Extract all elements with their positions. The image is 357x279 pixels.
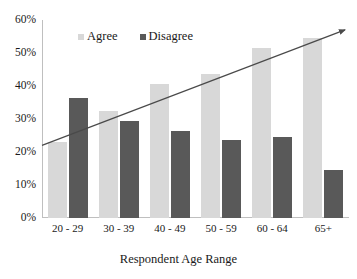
bar-agree	[99, 111, 118, 218]
bar-agree	[150, 84, 169, 218]
y-axis-tick-label: 20%	[0, 146, 36, 158]
chart-legend: AgreeDisagree	[78, 30, 193, 43]
bar-group	[247, 20, 298, 218]
bar-disagree	[120, 121, 139, 218]
plot-area	[42, 20, 349, 218]
y-axis-tick-label: 10%	[0, 179, 36, 191]
bar-group	[144, 20, 195, 218]
bar-disagree	[324, 170, 343, 218]
bar-chart: 60%50%40%30%20%10%0% AgreeDisagree 20 - …	[0, 0, 357, 279]
bar-group	[93, 20, 144, 218]
bar-agree	[201, 74, 220, 218]
y-axis-tick-label: 0%	[0, 212, 36, 224]
bar-group	[196, 20, 247, 218]
bar-agree	[303, 38, 322, 218]
bar-agree	[48, 142, 67, 218]
x-axis-tick-labels: 20 - 2930 - 3940 - 4950 - 5960 - 6465+	[42, 222, 349, 235]
y-axis-tick-label: 30%	[0, 113, 36, 125]
x-axis-tick-label: 20 - 29	[42, 222, 93, 235]
x-axis-tick-label: 60 - 64	[247, 222, 298, 235]
y-axis-tick-label: 40%	[0, 80, 36, 92]
bar-disagree	[273, 137, 292, 218]
y-axis-tick-label: 50%	[0, 47, 36, 59]
x-axis-tick-label: 30 - 39	[93, 222, 144, 235]
bar-disagree	[171, 131, 190, 218]
y-axis: 60%50%40%30%20%10%0%	[0, 0, 40, 279]
y-axis-tick-label: 60%	[0, 14, 36, 26]
legend-swatch-icon	[140, 34, 146, 40]
bar-group	[42, 20, 93, 218]
bar-disagree	[69, 98, 88, 218]
legend-swatch-icon	[78, 34, 84, 40]
x-axis-tick-label: 65+	[298, 222, 349, 235]
x-axis-tick-label: 40 - 49	[144, 222, 195, 235]
bar-disagree	[222, 140, 241, 218]
bar-agree	[252, 48, 271, 218]
bar-group	[298, 20, 349, 218]
legend-item-disagree[interactable]: Disagree	[140, 30, 193, 43]
bar-groups	[42, 20, 349, 218]
legend-label: Disagree	[149, 30, 193, 43]
x-axis-title: Respondent Age Range	[0, 252, 357, 266]
legend-label: Agree	[87, 30, 118, 43]
x-axis-tick-label: 50 - 59	[196, 222, 247, 235]
legend-item-agree[interactable]: Agree	[78, 30, 118, 43]
